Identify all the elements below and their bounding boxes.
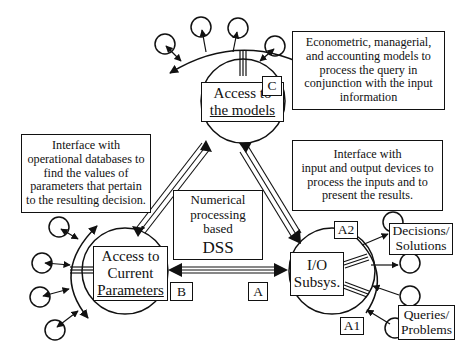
tag-b-text: B [177,285,186,299]
parameters-desc-line: operational databases to [27,153,144,167]
tag-a1: A1 [340,317,364,335]
parameters-desc-line: parameters that pertain [30,180,142,194]
parameter-item-circle [30,287,50,307]
io-desc-line: present the results. [322,189,413,203]
models-desc-line: process the query in [320,64,418,78]
center-dss-box: Numerical processing based DSS [173,190,263,260]
queries-problems-box: Queries/ Problems [398,305,455,340]
dss-title-line: processing [190,208,246,223]
dss-title-line: based [203,222,233,237]
outputs-line: Solutions [395,239,446,254]
io-label-line: I/O [307,257,327,274]
dss-title-line: Numerical [191,193,246,208]
model-item-circle [228,18,248,38]
inputs-line: Problems [401,323,452,338]
parameters-desc-line: to the resulting decision. [26,194,146,208]
parameters-desc-line: find the values of [44,167,129,181]
io-endpoint-circle [400,253,420,273]
io-desc-line: input and output devices to [301,162,433,176]
parameters-description-box: Interface with operational databases to … [21,134,151,213]
models-label-line: the models [210,102,275,119]
parameters-label-line: Parameters [97,282,164,299]
tag-a2: A2 [334,221,358,239]
models-desc-line: conjunction with the input [304,77,432,91]
tag-c: C [262,76,282,96]
io-endpoint-circle [400,286,420,306]
io-desc-line: process the inputs and to [307,176,428,190]
tag-a2-text: A2 [338,223,355,237]
model-item-circle [155,34,175,54]
tag-a-text: A [253,285,263,299]
tag-a1-text: A1 [344,319,361,333]
connection-parameters-io [168,263,288,277]
models-desc-line: information [340,91,398,105]
io-description-box: Interface with input and output devices … [292,140,443,211]
models-desc-line: and accounting models to [306,50,431,64]
decisions-solutions-box: Decisions/ Solutions [389,223,453,255]
io-node-label: I/O Subsys. [290,252,344,296]
models-desc-line: Econometric, managerial, [306,36,432,50]
tag-b: B [170,282,193,301]
parameters-node-label: Access to Current Parameters [93,246,168,301]
parameter-item-circle [49,217,69,237]
inputs-line: Queries/ [404,308,450,323]
io-label-line: Subsys. [294,274,340,291]
parameters-desc-line: Interface with [52,139,120,153]
parameters-label-line: Current [108,265,154,282]
parameters-label-line: Access to [102,248,160,265]
tag-a: A [248,282,268,301]
models-description-box: Econometric, managerial, and accounting … [292,31,445,110]
outputs-line: Decisions/ [393,224,450,239]
model-item-circle [265,36,285,56]
model-item-circle [191,17,211,37]
io-desc-line: Interface with [333,148,401,162]
tag-c-text: C [267,79,276,93]
dss-title-main: DSS [202,238,233,257]
